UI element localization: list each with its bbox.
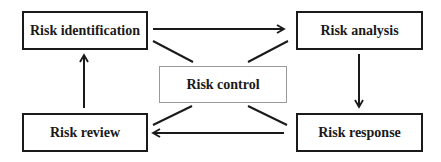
line-control-to-analysis <box>248 41 288 62</box>
node-label: Risk identification <box>30 23 140 39</box>
node-risk-review: Risk review <box>22 113 148 152</box>
node-label: Risk review <box>50 125 120 141</box>
node-label: Risk control <box>186 77 259 93</box>
node-risk-identification: Risk identification <box>22 11 148 50</box>
node-label: Risk analysis <box>320 23 398 39</box>
line-control-to-identification <box>153 41 193 62</box>
node-risk-response: Risk response <box>296 113 423 152</box>
risk-management-diagram: Risk identification Risk analysis Risk c… <box>0 0 441 162</box>
line-control-to-response <box>248 106 287 125</box>
node-risk-analysis: Risk analysis <box>296 11 423 50</box>
node-label: Risk response <box>318 125 401 141</box>
line-control-to-review <box>153 106 192 125</box>
node-risk-control: Risk control <box>159 66 287 103</box>
